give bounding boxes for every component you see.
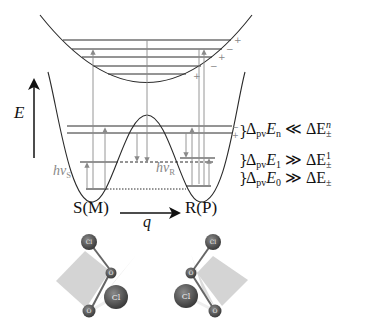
left-well-label: S(M) bbox=[73, 198, 109, 218]
svg-text:+: + bbox=[232, 131, 239, 140]
coordinate-axis-label: q bbox=[143, 213, 151, 231]
svg-text:−: − bbox=[210, 61, 218, 71]
svg-text:Cl: Cl bbox=[210, 238, 217, 245]
relation-level-n: ΔpvEn ≪ ΔEn± bbox=[246, 119, 331, 139]
svg-text:O: O bbox=[87, 307, 92, 314]
energy-axis-label: E bbox=[14, 103, 24, 123]
svg-text:+: + bbox=[234, 35, 242, 45]
excited-state-potential bbox=[40, 15, 252, 83]
tunnel-split-signs: − + bbox=[232, 123, 239, 140]
svg-text:O: O bbox=[213, 307, 218, 314]
svg-text:O: O bbox=[189, 269, 194, 276]
molecule-left: Cl O Cl O bbox=[56, 234, 137, 318]
svg-text:−: − bbox=[226, 44, 234, 54]
parity-signs: + − + − + bbox=[193, 35, 242, 81]
svg-text:O: O bbox=[109, 269, 114, 276]
right-well-label: R(P) bbox=[185, 198, 217, 218]
svg-text:Cl: Cl bbox=[182, 292, 191, 301]
molecule-right: Cl O Cl O bbox=[174, 234, 248, 318]
photon-label-right: hνR bbox=[156, 160, 175, 177]
relation-level-0: ΔpvE0 ≫ ΔE± bbox=[246, 168, 331, 188]
ground-state-double-well bbox=[48, 72, 245, 202]
svg-text:Cl: Cl bbox=[86, 238, 93, 245]
svg-text:Cl: Cl bbox=[112, 293, 121, 302]
photon-label-left: hνS bbox=[53, 163, 71, 180]
svg-text:+: + bbox=[218, 52, 226, 62]
transition-arrows bbox=[87, 40, 209, 189]
